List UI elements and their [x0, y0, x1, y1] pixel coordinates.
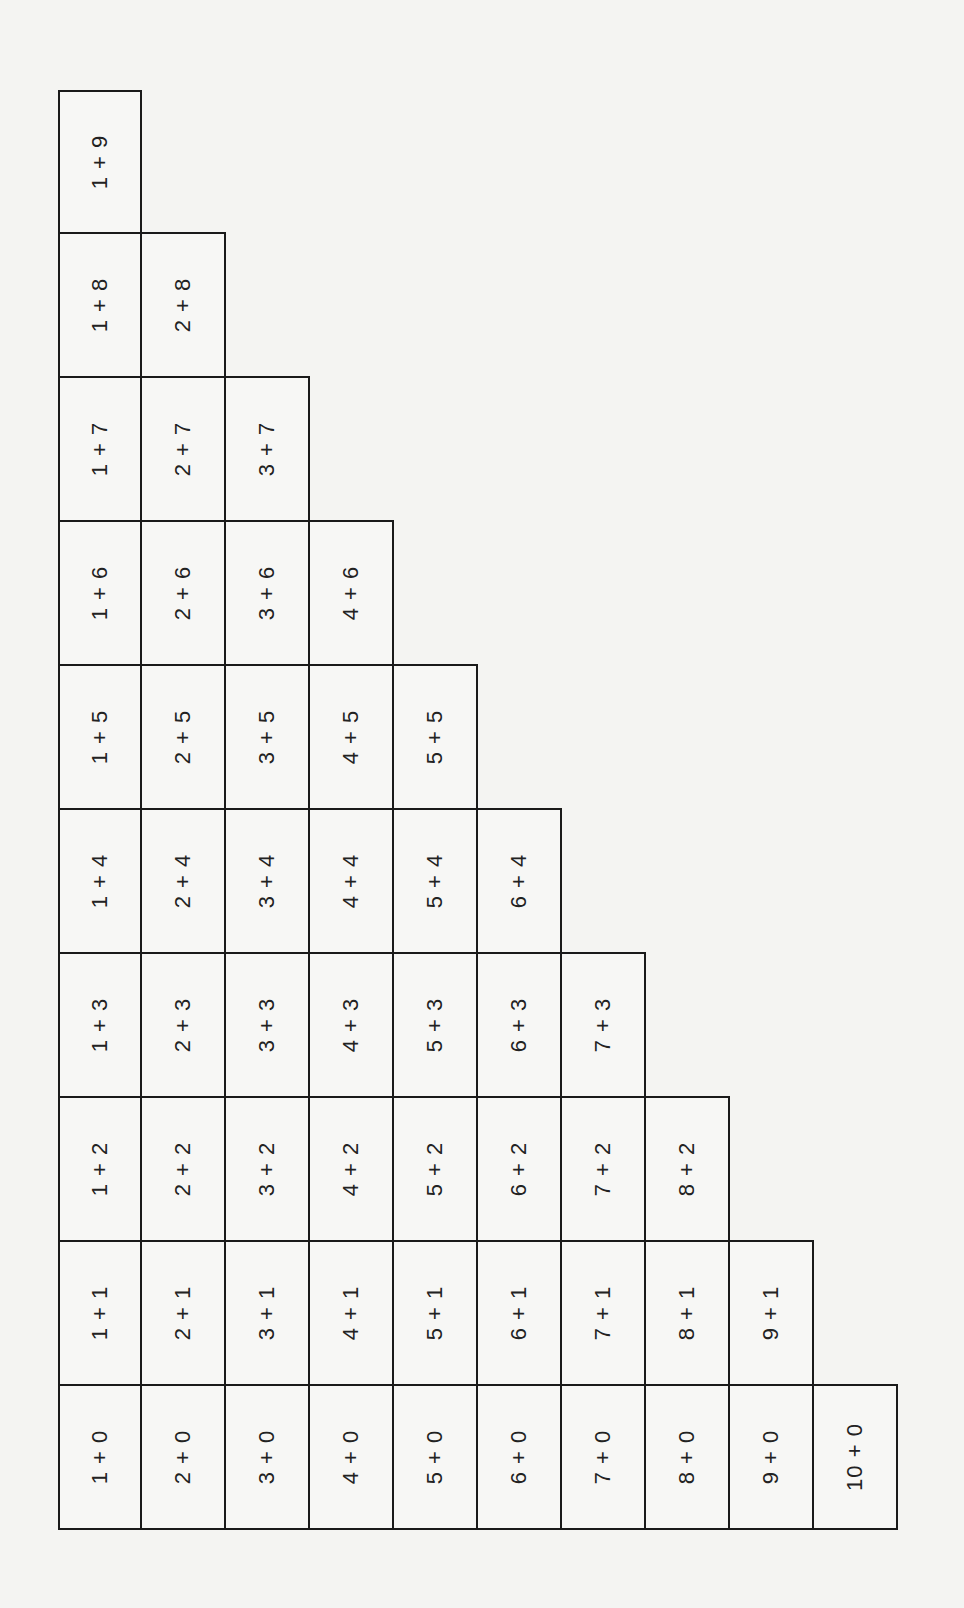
table-cell: 1 + 2	[58, 1096, 142, 1242]
cell-label: 10 + 0	[842, 1423, 868, 1491]
cell-label: 8 + 1	[674, 1286, 700, 1341]
cell-label: 1 + 7	[87, 422, 113, 477]
cell-label: 2 + 5	[170, 710, 196, 765]
table-cell: 6 + 0	[476, 1384, 562, 1530]
cell-label: 6 + 2	[506, 1142, 532, 1197]
table-cell: 9 + 1	[728, 1240, 814, 1386]
table-cell: 6 + 2	[476, 1096, 562, 1242]
cell-label: 2 + 1	[170, 1286, 196, 1341]
table-cell: 3 + 4	[224, 808, 310, 954]
cell-label: 6 + 0	[506, 1430, 532, 1485]
cell-label: 8 + 2	[674, 1142, 700, 1197]
table-cell: 7 + 0	[560, 1384, 646, 1530]
cell-label: 4 + 0	[338, 1430, 364, 1485]
table-cell: 1 + 0	[58, 1384, 142, 1530]
cell-label: 3 + 0	[254, 1430, 280, 1485]
table-cell: 2 + 5	[140, 664, 226, 810]
cell-label: 5 + 5	[422, 710, 448, 765]
cell-label: 4 + 1	[338, 1286, 364, 1341]
cell-label: 7 + 3	[590, 998, 616, 1053]
table-cell: 8 + 1	[644, 1240, 730, 1386]
table-cell: 4 + 6	[308, 520, 394, 666]
cell-label: 5 + 4	[422, 854, 448, 909]
table-cell: 1 + 8	[58, 232, 142, 378]
table-cell: 2 + 6	[140, 520, 226, 666]
cell-label: 5 + 3	[422, 998, 448, 1053]
table-cell: 3 + 1	[224, 1240, 310, 1386]
table-cell: 2 + 4	[140, 808, 226, 954]
table-cell: 5 + 4	[392, 808, 478, 954]
cell-label: 5 + 2	[422, 1142, 448, 1197]
cell-label: 3 + 5	[254, 710, 280, 765]
cell-label: 6 + 4	[506, 854, 532, 909]
cell-label: 6 + 3	[506, 998, 532, 1053]
cell-label: 1 + 9	[87, 135, 113, 190]
cell-label: 4 + 3	[338, 998, 364, 1053]
table-cell: 9 + 0	[728, 1384, 814, 1530]
table-cell: 8 + 0	[644, 1384, 730, 1530]
cell-label: 1 + 0	[87, 1430, 113, 1485]
table-cell: 5 + 1	[392, 1240, 478, 1386]
table-cell: 3 + 3	[224, 952, 310, 1098]
cell-label: 2 + 3	[170, 998, 196, 1053]
table-cell: 1 + 6	[58, 520, 142, 666]
cell-label: 1 + 8	[87, 278, 113, 333]
table-cell: 7 + 3	[560, 952, 646, 1098]
cell-label: 1 + 5	[87, 710, 113, 765]
table-cell: 2 + 1	[140, 1240, 226, 1386]
cell-label: 1 + 3	[87, 998, 113, 1053]
table-cell: 7 + 2	[560, 1096, 646, 1242]
cell-label: 7 + 2	[590, 1142, 616, 1197]
table-cell: 1 + 1	[58, 1240, 142, 1386]
table-cell: 1 + 4	[58, 808, 142, 954]
table-cell: 4 + 3	[308, 952, 394, 1098]
cell-label: 5 + 1	[422, 1286, 448, 1341]
table-cell: 4 + 2	[308, 1096, 394, 1242]
cell-label: 9 + 0	[758, 1430, 784, 1485]
cell-label: 3 + 7	[254, 422, 280, 477]
table-cell: 3 + 0	[224, 1384, 310, 1530]
cell-label: 5 + 0	[422, 1430, 448, 1485]
cell-label: 2 + 4	[170, 854, 196, 909]
table-cell: 6 + 3	[476, 952, 562, 1098]
table-cell: 1 + 9	[58, 90, 142, 234]
table-cell: 4 + 4	[308, 808, 394, 954]
cell-label: 3 + 4	[254, 854, 280, 909]
table-cell: 5 + 5	[392, 664, 478, 810]
cell-label: 7 + 1	[590, 1286, 616, 1341]
cell-label: 4 + 4	[338, 854, 364, 909]
cell-label: 4 + 5	[338, 710, 364, 765]
table-cell: 1 + 5	[58, 664, 142, 810]
table-cell: 5 + 2	[392, 1096, 478, 1242]
cell-label: 2 + 8	[170, 278, 196, 333]
cell-label: 2 + 0	[170, 1430, 196, 1485]
table-cell: 6 + 4	[476, 808, 562, 954]
cell-label: 2 + 6	[170, 566, 196, 621]
table-cell: 4 + 1	[308, 1240, 394, 1386]
table-cell: 2 + 3	[140, 952, 226, 1098]
table-cell: 2 + 8	[140, 232, 226, 378]
cell-label: 1 + 2	[87, 1142, 113, 1197]
table-cell: 2 + 0	[140, 1384, 226, 1530]
table-cell: 2 + 2	[140, 1096, 226, 1242]
table-cell: 10 + 0	[812, 1384, 898, 1530]
cell-label: 3 + 1	[254, 1286, 280, 1341]
table-cell: 1 + 3	[58, 952, 142, 1098]
cell-label: 3 + 2	[254, 1142, 280, 1197]
table-cell: 4 + 5	[308, 664, 394, 810]
table-cell: 2 + 7	[140, 376, 226, 522]
table-cell: 6 + 1	[476, 1240, 562, 1386]
table-cell: 5 + 0	[392, 1384, 478, 1530]
table-cell: 8 + 2	[644, 1096, 730, 1242]
cell-label: 9 + 1	[758, 1286, 784, 1341]
cell-label: 7 + 0	[590, 1430, 616, 1485]
cell-label: 1 + 6	[87, 566, 113, 621]
table-cell: 3 + 2	[224, 1096, 310, 1242]
cell-label: 2 + 2	[170, 1142, 196, 1197]
cell-label: 3 + 6	[254, 566, 280, 621]
cell-label: 3 + 3	[254, 998, 280, 1053]
table-cell: 3 + 5	[224, 664, 310, 810]
cell-label: 1 + 1	[87, 1286, 113, 1341]
cell-label: 1 + 4	[87, 854, 113, 909]
table-cell: 1 + 7	[58, 376, 142, 522]
